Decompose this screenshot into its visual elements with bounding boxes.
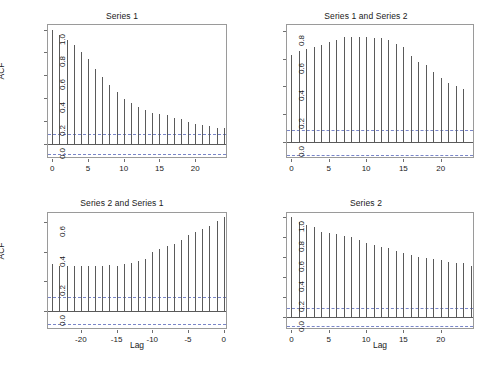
- acf-stem: [81, 266, 82, 311]
- acf-stem: [351, 37, 352, 142]
- acf-stem: [426, 258, 427, 317]
- acf-stem: [388, 248, 389, 316]
- acf-stem: [456, 263, 457, 316]
- x-tick: [366, 159, 367, 162]
- y-tick: [44, 30, 47, 31]
- y-tick-label: 0.6: [58, 220, 67, 242]
- plot-area: 0.00.20.40.60.805101520: [286, 24, 474, 158]
- x-tick: [124, 159, 125, 162]
- acf-stem: [145, 110, 146, 144]
- y-tick: [283, 237, 286, 238]
- acf-stem: [329, 233, 330, 316]
- acf-stem: [344, 236, 345, 317]
- acf-stem: [374, 38, 375, 143]
- acf-stem: [167, 246, 168, 310]
- x-tick: [88, 159, 89, 162]
- x-tick-label: 15: [144, 164, 174, 173]
- acf-stem: [291, 55, 292, 142]
- y-tick: [283, 59, 286, 60]
- acf-panel-grid: Series 1 ACF 0.00.20.40.60.81.005101520 …: [0, 0, 488, 377]
- x-tick: [195, 159, 196, 162]
- x-tick-label: 10: [351, 164, 381, 173]
- acf-stem: [117, 92, 118, 144]
- x-tick-label: 0: [209, 335, 239, 344]
- acf-stem: [195, 232, 196, 310]
- acf-stem: [102, 77, 103, 144]
- acf-stem: [381, 247, 382, 316]
- x-tick-label: 15: [388, 335, 418, 344]
- x-tick: [403, 159, 404, 162]
- x-tick: [403, 330, 404, 333]
- acf-stem: [217, 128, 218, 144]
- x-tick-label: 5: [73, 164, 103, 173]
- x-tick-label: 5: [314, 164, 344, 173]
- acf-stem: [174, 118, 175, 144]
- y-tick-label: 0.0: [58, 309, 67, 331]
- acf-stem: [456, 86, 457, 143]
- acf-stem: [403, 47, 404, 142]
- acf-stem: [174, 244, 175, 311]
- acf-stem: [145, 259, 146, 311]
- acf-stem: [124, 99, 125, 144]
- acf-stem: [109, 85, 110, 144]
- panel-series-1-and-series-2: Series 1 and Series 2 0.00.20.40.60.8051…: [244, 0, 488, 188]
- x-tick-label: 0: [37, 164, 67, 173]
- plot-area: 0.00.20.40.60.81.005101520: [286, 212, 474, 329]
- x-tick: [329, 330, 330, 333]
- x-tick: [441, 330, 442, 333]
- y-tick-label: 1.0: [297, 215, 306, 237]
- y-tick: [283, 142, 286, 143]
- acf-stem: [403, 253, 404, 316]
- panel-series-1: Series 1 ACF 0.00.20.40.60.81.005101520: [0, 0, 244, 188]
- acf-stem: [433, 72, 434, 142]
- ci-band-lower: [287, 326, 473, 327]
- acf-stem: [388, 40, 389, 142]
- acf-stem: [321, 232, 322, 316]
- y-tick-label: 0.0: [297, 315, 306, 337]
- acf-stem: [152, 113, 153, 144]
- acf-stem: [88, 59, 89, 144]
- x-tick-label: 0: [276, 335, 306, 344]
- acf-stem: [374, 245, 375, 317]
- y-tick: [283, 257, 286, 258]
- acf-stem: [306, 225, 307, 316]
- acf-stem: [344, 37, 345, 142]
- zero-baseline: [287, 142, 473, 143]
- acf-stem: [131, 263, 132, 311]
- y-tick-label: 0.4: [297, 275, 306, 297]
- ci-band-lower: [287, 155, 473, 156]
- x-tick: [441, 159, 442, 162]
- x-tick-label: 10: [109, 164, 139, 173]
- acf-stem: [159, 114, 160, 144]
- acf-stem: [81, 52, 82, 144]
- y-tick-label: 0.6: [297, 57, 306, 79]
- y-tick: [44, 222, 47, 223]
- y-tick: [44, 311, 47, 312]
- x-tick-label: 20: [426, 335, 456, 344]
- y-tick: [44, 281, 47, 282]
- x-tick-label: 10: [351, 335, 381, 344]
- x-tick-label: 5: [314, 335, 344, 344]
- y-tick: [44, 121, 47, 122]
- acf-stem: [117, 266, 118, 311]
- x-tick: [152, 330, 153, 333]
- y-tick-label: 1.0: [58, 28, 67, 50]
- acf-stem: [396, 44, 397, 142]
- y-tick: [44, 52, 47, 53]
- panel-title: Series 2: [244, 198, 488, 208]
- acf-stem: [433, 259, 434, 316]
- y-tick-label: 0.8: [297, 235, 306, 257]
- acf-stem: [188, 122, 189, 144]
- acf-stem: [109, 265, 110, 311]
- y-tick-label: 0.2: [58, 280, 67, 302]
- x-tick: [52, 159, 53, 162]
- acf-stem: [336, 40, 337, 143]
- plot-area: 0.00.20.40.6-20-15-10-50: [47, 212, 227, 329]
- acf-stem: [131, 103, 132, 144]
- y-tick-label: 0.6: [58, 74, 67, 96]
- acf-stem: [152, 252, 153, 311]
- x-tick: [291, 330, 292, 333]
- acf-stem: [202, 229, 203, 311]
- acf-stem: [202, 125, 203, 144]
- panel-title: Series 1: [0, 11, 244, 21]
